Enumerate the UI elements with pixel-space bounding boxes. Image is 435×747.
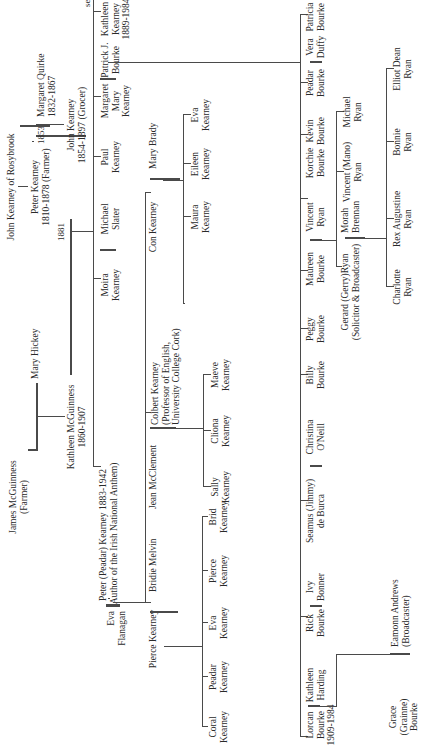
name-line: O'Neill (316, 420, 327, 455)
name-line: Kearney (111, 269, 122, 301)
name-line: Bourke (316, 148, 327, 179)
person-james-mcguinness: James McGuinness (Farmer) (8, 460, 29, 534)
name-line: Ryan (353, 142, 364, 202)
name-line: Elliot Dean (392, 47, 403, 91)
name-line: Christina (305, 420, 316, 455)
child-tick (145, 602, 151, 603)
person-kathleen-harding: Kathleen Harding (305, 668, 326, 702)
name-line: Slater (111, 203, 122, 234)
marriage-line-peadar-eva (106, 604, 120, 606)
person-name: Con Kearney (148, 202, 158, 252)
name-line: Gerard (Gerry)Ryan (340, 244, 351, 341)
descent-line (36, 124, 64, 125)
person-john-kearney-rosybrook: John Kearney of Rosybrook (6, 134, 17, 241)
person-billy-bourke: Billy Bourke (305, 361, 326, 389)
name-line: Rex Augustine (392, 191, 403, 247)
name-line: Eva (106, 611, 117, 646)
person-dates: 1832-1867 (47, 54, 58, 117)
marriage-line-lorcan-kathleen (308, 705, 320, 707)
name-line: Duffy (316, 36, 327, 59)
name-line: Bonnie (392, 128, 403, 155)
child-tick (183, 303, 185, 304)
name-line: (Professor of English, (161, 328, 172, 425)
person-gerard-ryan: Gerard (Gerry)Ryan (Solicitor & Broadcas… (340, 244, 361, 341)
name-line: Kearney (219, 555, 230, 587)
name-line: Kearney (221, 359, 232, 391)
person-rex-augustine-ryan: Rex Augustine Ryan (392, 191, 413, 247)
person-dates: 1810-1878 (Farmer) (41, 148, 52, 225)
person-coral-kearney: Coral Kearney (208, 711, 229, 743)
name-line: Patrick J. (100, 42, 111, 77)
name-line: Kevin (305, 117, 316, 145)
marriage-line-moira-michael (100, 249, 116, 251)
person-maura-kearney: Maura Kearney (190, 201, 211, 233)
name-line: (Broadcaster) (401, 579, 412, 647)
name-line: Brennan (351, 201, 362, 233)
name-line: Harding (316, 668, 327, 702)
name-line: 1889-1984 (121, 0, 132, 40)
person-sally-kearney: Sally Kearney (210, 471, 231, 503)
descent-line (71, 231, 93, 232)
name-line: Bourke (111, 42, 122, 77)
person-pierce-kearney-jr: Pierce Kearney (208, 555, 229, 587)
name-line: Michael (100, 203, 111, 234)
name-line: Bourke (316, 69, 327, 97)
name-line: 1909-1984 (326, 704, 337, 745)
person-kevin-bourke: Kevin Bourke (305, 117, 326, 145)
name-line: Kearney (221, 471, 232, 503)
person-bonnie-ryan: Bonnie Ryan (392, 128, 413, 155)
person-con-kearney: Con Kearney (148, 202, 159, 252)
person-name: James McGuinness (8, 460, 19, 534)
name-line: Kathleen (305, 668, 316, 702)
name-line: Kearney (201, 148, 212, 180)
name-line: Maureen (305, 252, 316, 286)
person-jean-mcclement: Jean McClement (148, 445, 159, 509)
person-peadar-kearney: Peter (Peadar) Kearney 1883-1942 (Author… (98, 463, 119, 608)
person-margaret-quirke: Margaret Quirke 1832-1867 (36, 54, 57, 117)
name-line: Kearney (219, 661, 230, 693)
name-line: Bourke (316, 2, 327, 31)
name-line: Colbert Kearney (150, 328, 161, 425)
name-line: Cliona (210, 415, 221, 447)
name-line: Kearney (219, 501, 230, 533)
sibling-bar-con-children (183, 115, 184, 304)
person-dates: 1854-1897 (Grocer) (77, 87, 88, 163)
name-line: Maeve (210, 359, 221, 391)
name-line: Morah (340, 201, 351, 233)
name-line: Grace (388, 699, 399, 736)
marriage-line-peadar-vera (310, 61, 322, 63)
person-peadar-kearney-jr: Peadar Kearney (208, 661, 229, 693)
person-bridie-melvin: Bridie Melvin (148, 538, 159, 592)
sibling-bar-peadar-children (145, 193, 146, 603)
marriage-line-pierce-bridie (150, 611, 178, 613)
descent-line (336, 655, 337, 707)
person-patricia-bourke: Patricia Bourke (305, 2, 326, 31)
name-line: Ryan (316, 202, 327, 232)
person-peggy-bourke: Peggy Bourke (305, 315, 326, 343)
name-line: Kearney (219, 607, 230, 639)
person-morah-brennan: Morah Brennan (340, 201, 361, 233)
person-eileen-kearney: Eileen Kearney (190, 148, 211, 180)
spacer (108, 598, 110, 599)
person-name: Peter Kearney (30, 148, 41, 225)
person-mary-brady: Mary Brady (148, 123, 159, 169)
name-line: Kearney (111, 141, 122, 173)
descent-line (336, 654, 396, 655)
descent-line (37, 416, 65, 417)
name-line: Brid (208, 501, 219, 533)
descent-line (163, 180, 183, 181)
descent-line (360, 238, 386, 239)
name-line: Vincent (Mano) (342, 142, 353, 202)
name-line: Korchie (305, 148, 316, 179)
person-kathleen-kearney: Kathleen Kearney 1889-1984 (100, 0, 132, 40)
name-line: Sally (210, 471, 221, 503)
name-line: Ivy (305, 573, 316, 601)
descent-line (164, 646, 202, 647)
person-kathleen-mcguinness: Kathleen McGuinness 1860-1907 (66, 385, 87, 470)
name-line: Maura (190, 201, 201, 233)
name-line: Peadar (208, 661, 219, 693)
note-text: see Table 2 (82, 0, 92, 7)
descent-line (316, 240, 336, 241)
person-mary-hickey: Mary Hickey (30, 329, 41, 379)
descent-line (18, 186, 28, 187)
